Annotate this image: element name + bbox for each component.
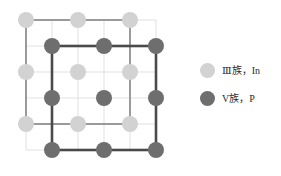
unit-cell-outlines — [26, 20, 156, 150]
atom-node-p — [96, 90, 112, 106]
atom-node-p — [44, 38, 60, 54]
atom-node-p — [44, 142, 60, 158]
atom-node-in — [122, 12, 138, 28]
atom-node-in — [70, 64, 86, 80]
atom-node-p — [148, 90, 164, 106]
atom-node-p — [96, 142, 112, 158]
atom-node-p — [148, 38, 164, 54]
legend-item-in: Ⅲ族，In — [200, 56, 281, 84]
atom-node-p — [96, 38, 112, 54]
atom-node-in — [18, 64, 34, 80]
grid-lines — [26, 20, 156, 150]
atom-node-in — [122, 64, 138, 80]
legend-item-p: V族，P — [200, 84, 281, 112]
atom-node-in — [70, 116, 86, 132]
atom-node-in — [18, 116, 34, 132]
legend-label-p: V族，P — [222, 93, 255, 104]
lattice-figure: Ⅲ族，In V族，P — [0, 0, 281, 176]
atom-nodes — [18, 12, 164, 158]
atom-node-in — [18, 12, 34, 28]
legend-label-in: Ⅲ族，In — [222, 65, 260, 76]
atom-node-p — [148, 142, 164, 158]
atom-node-in — [70, 12, 86, 28]
atom-node-p — [44, 90, 60, 106]
legend: Ⅲ族，In V族，P — [200, 56, 281, 122]
legend-swatch-p-icon — [200, 91, 215, 106]
atom-node-in — [122, 116, 138, 132]
legend-swatch-in-icon — [200, 63, 215, 78]
